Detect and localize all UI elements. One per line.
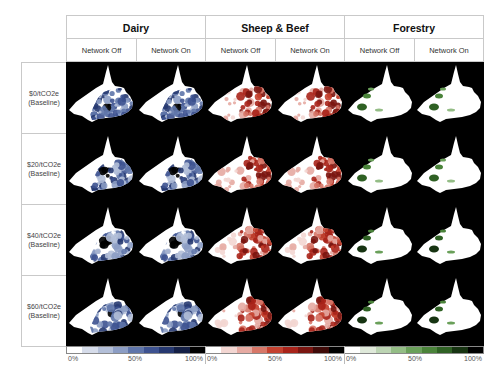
map-cell bbox=[66, 275, 136, 346]
region-map bbox=[275, 204, 345, 275]
subheader-dairy-network-on: Network On bbox=[136, 38, 206, 62]
region-map bbox=[136, 275, 206, 346]
map-cell bbox=[136, 204, 206, 275]
map-grid bbox=[66, 62, 484, 346]
map-cell bbox=[66, 62, 136, 133]
map-cell bbox=[205, 204, 275, 275]
row-label-price: $20/tCO2e bbox=[27, 160, 61, 169]
region-map bbox=[414, 62, 484, 133]
map-cell bbox=[275, 204, 345, 275]
map-cell bbox=[414, 133, 484, 204]
region-map bbox=[66, 62, 136, 133]
region-map bbox=[205, 62, 275, 133]
region-map bbox=[414, 275, 484, 346]
region-map bbox=[345, 275, 415, 346]
region-map bbox=[345, 133, 415, 204]
header-forestry: Forestry bbox=[344, 15, 484, 39]
region-map bbox=[414, 133, 484, 204]
map-cell bbox=[414, 62, 484, 133]
map-cell bbox=[345, 133, 415, 204]
row-label-60: $60/tCO2e (Baseline) bbox=[21, 275, 66, 347]
row-label-40: $40/tCO2e (Baseline) bbox=[21, 204, 66, 276]
region-map bbox=[205, 133, 275, 204]
legend-sheep-beef-mid: 50% bbox=[268, 355, 282, 362]
header-sheep-beef: Sheep & Beef bbox=[205, 15, 345, 39]
map-cell bbox=[345, 275, 415, 346]
map-cell bbox=[66, 133, 136, 204]
region-map bbox=[66, 204, 136, 275]
map-cell bbox=[136, 275, 206, 346]
map-cell bbox=[275, 133, 345, 204]
map-cell bbox=[136, 62, 206, 133]
map-cell bbox=[136, 133, 206, 204]
region-map bbox=[414, 204, 484, 275]
row-label-scenario: (Baseline) bbox=[28, 169, 60, 178]
subheader-sheep-beef-network-off: Network Off bbox=[205, 38, 276, 62]
map-cell bbox=[205, 133, 275, 204]
map-cell bbox=[414, 204, 484, 275]
legend-sheep-beef bbox=[205, 346, 345, 354]
legend-dairy-max: 100% bbox=[185, 355, 203, 362]
map-cell bbox=[275, 62, 345, 133]
region-map bbox=[136, 204, 206, 275]
row-label-scenario: (Baseline) bbox=[28, 311, 60, 320]
region-map bbox=[136, 133, 206, 204]
region-map bbox=[345, 204, 415, 275]
legend-forestry bbox=[344, 346, 484, 354]
region-map bbox=[205, 275, 275, 346]
region-map bbox=[66, 275, 136, 346]
map-cell bbox=[205, 62, 275, 133]
row-label-20: $20/tCO2e (Baseline) bbox=[21, 133, 66, 205]
subheader-forestry-network-on: Network On bbox=[414, 38, 484, 62]
region-map bbox=[345, 62, 415, 133]
map-cell bbox=[414, 275, 484, 346]
legend-dairy-min: 0% bbox=[68, 355, 78, 362]
map-cell bbox=[66, 204, 136, 275]
legend-sheep-beef-min: 0% bbox=[207, 355, 217, 362]
region-map bbox=[275, 62, 345, 133]
row-label-0: $0/tCO2e (Baseline) bbox=[21, 62, 66, 134]
row-label-price: $60/tCO2e bbox=[27, 302, 61, 311]
legend-forestry-mid: 50% bbox=[408, 355, 422, 362]
map-cell bbox=[275, 275, 345, 346]
legend-dairy-mid: 50% bbox=[128, 355, 142, 362]
region-map bbox=[205, 204, 275, 275]
subheader-dairy-network-off: Network Off bbox=[66, 38, 137, 62]
legend-divider bbox=[205, 346, 206, 364]
region-map bbox=[136, 62, 206, 133]
map-cell bbox=[345, 62, 415, 133]
row-label-price: $40/tCO2e bbox=[27, 231, 61, 240]
region-map bbox=[275, 275, 345, 346]
row-label-scenario: (Baseline) bbox=[28, 98, 60, 107]
map-cell bbox=[345, 204, 415, 275]
row-label-scenario: (Baseline) bbox=[28, 240, 60, 249]
header-dairy: Dairy bbox=[66, 15, 206, 39]
row-label-price: $0/tCO2e bbox=[29, 89, 59, 98]
region-map bbox=[275, 133, 345, 204]
region-map bbox=[66, 133, 136, 204]
legend-sheep-beef-max: 100% bbox=[324, 355, 342, 362]
legend-dairy bbox=[66, 346, 206, 354]
map-cell bbox=[205, 275, 275, 346]
legend-forestry-min: 0% bbox=[346, 355, 356, 362]
subheader-sheep-beef-network-on: Network On bbox=[275, 38, 345, 62]
subheader-forestry-network-off: Network Off bbox=[344, 38, 415, 62]
legend-forestry-max: 100% bbox=[464, 355, 482, 362]
legend-divider bbox=[344, 346, 345, 364]
